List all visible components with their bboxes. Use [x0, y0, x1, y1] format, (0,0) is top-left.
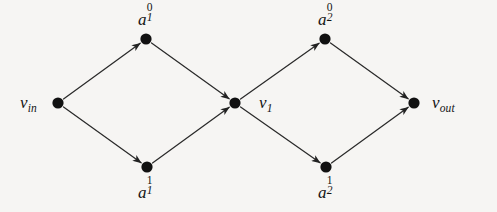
a-1-0-node-label-base: a — [138, 10, 147, 29]
edge-a20-to-vout — [331, 43, 409, 99]
v-in-node — [52, 97, 63, 108]
a-2-1-node-label-subscript: 2 — [327, 185, 333, 197]
a-2-1-node — [320, 161, 331, 172]
a-2-0-node-label-base: a — [318, 10, 327, 29]
v-in-node-label: vin — [20, 94, 37, 114]
v-1-node-label-base: v — [259, 93, 267, 112]
graph-canvas — [0, 0, 497, 212]
v-1-node — [229, 97, 240, 108]
v-out-node-label-base: v — [432, 93, 440, 112]
nodes-layer — [52, 33, 419, 172]
a-1-1-node-label-subscript: 1 — [147, 185, 153, 197]
v-out-node-label-subscript: out — [440, 102, 455, 114]
v-1-node-label: v1 — [259, 94, 273, 114]
v-out-node — [408, 97, 419, 108]
v-in-node-label-subscript: in — [28, 102, 37, 114]
a-1-0-node — [140, 33, 151, 44]
edge-a10-to-v1 — [152, 43, 230, 99]
edge-vin-to-a10 — [64, 43, 141, 99]
a-1-1-node — [141, 161, 152, 172]
a-1-0-node-label: a01 — [138, 8, 154, 28]
graph-diagram: vina01a11v1a02a12vout — [0, 0, 497, 212]
edge-v1-to-a21 — [241, 107, 321, 163]
a-2-0-node-label-indices: 02 — [327, 8, 334, 25]
edge-v1-to-a20 — [241, 43, 320, 99]
v-1-node-label-subscript: 1 — [267, 102, 273, 114]
a-2-1-node-label-indices: 12 — [327, 181, 334, 198]
v-out-node-label: vout — [432, 94, 455, 114]
edge-a21-to-vout — [332, 107, 409, 163]
a-2-0-node-label: a02 — [318, 8, 334, 28]
a-1-0-node-label-subscript: 1 — [147, 12, 153, 24]
a-2-0-node — [319, 33, 330, 44]
a-2-1-node-label: a12 — [318, 181, 334, 201]
a-2-0-node-label-subscript: 2 — [327, 12, 333, 24]
a-2-1-node-label-base: a — [318, 183, 327, 202]
a-1-0-node-label-indices: 01 — [147, 8, 154, 25]
a-1-1-node-label-indices: 11 — [147, 181, 154, 198]
a-1-1-node-label: a11 — [138, 181, 154, 201]
edge-a11-to-v1 — [153, 107, 230, 163]
v-in-node-label-base: v — [20, 93, 28, 112]
a-1-1-node-label-base: a — [138, 183, 147, 202]
edge-vin-to-a11 — [64, 107, 142, 163]
